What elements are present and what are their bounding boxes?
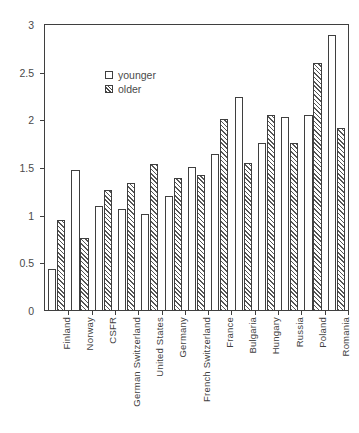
- x-axis-label: France: [224, 317, 235, 348]
- x-axis-label: Hungary: [270, 317, 281, 354]
- y-tick-label: 0.5: [0, 257, 34, 269]
- y-tick-mark: [40, 263, 44, 264]
- y-tick-label: 2: [0, 114, 34, 126]
- bar-older: [127, 183, 135, 311]
- bar-younger: [71, 170, 79, 311]
- x-tick-mark: [348, 311, 349, 315]
- bar-older: [313, 63, 321, 311]
- bar-younger: [95, 206, 103, 311]
- x-axis-label: Norway: [84, 317, 95, 350]
- x-axis-label: Russia: [294, 317, 305, 347]
- x-tick-mark: [162, 311, 163, 315]
- bar-older: [244, 163, 252, 311]
- x-axis-ticks: [45, 311, 348, 316]
- bar-younger: [48, 269, 56, 311]
- bar-younger: [165, 196, 173, 311]
- bar-younger: [211, 154, 219, 311]
- y-tick-mark: [40, 73, 44, 74]
- bar-older: [150, 164, 158, 311]
- bar-older: [220, 119, 228, 311]
- x-tick-mark: [115, 311, 116, 315]
- bar-younger: [328, 35, 336, 311]
- bar-younger: [235, 97, 243, 311]
- x-tick-mark: [255, 311, 256, 315]
- y-axis: 00.511.522.53: [0, 0, 42, 433]
- y-tick-label: 1: [0, 210, 34, 222]
- bars-layer: [45, 25, 348, 311]
- x-axis-label: Finland: [61, 317, 72, 350]
- x-tick-mark: [92, 311, 93, 315]
- bar-older: [337, 128, 345, 311]
- bar-older: [197, 175, 205, 311]
- bar-chart: 00.511.522.53 hours younger older Finlan…: [0, 0, 359, 433]
- x-tick-mark: [325, 311, 326, 315]
- bar-older: [174, 178, 182, 311]
- bar-younger: [304, 115, 312, 311]
- x-tick-mark: [231, 311, 232, 315]
- y-tick-mark: [40, 120, 44, 121]
- x-axis-label: French Switzerland: [201, 317, 212, 402]
- bar-older: [104, 190, 112, 311]
- bar-younger: [188, 167, 196, 311]
- y-tick-label: 1.5: [0, 162, 34, 174]
- y-tick-mark: [40, 168, 44, 169]
- x-tick-mark: [301, 311, 302, 315]
- x-tick-mark: [138, 311, 139, 315]
- x-tick-mark: [278, 311, 279, 315]
- x-axis-labels: FinlandNorwayCSFRGerman SwitzerlandUnite…: [45, 317, 348, 429]
- y-tick-label: 2.5: [0, 67, 34, 79]
- x-axis-label: Germany: [177, 317, 188, 357]
- bar-older: [80, 238, 88, 311]
- x-tick-mark: [68, 311, 69, 315]
- bar-younger: [258, 143, 266, 311]
- y-tick-label: 0: [0, 305, 34, 317]
- x-axis-label: CSFR: [107, 317, 118, 344]
- y-tick-label: 3: [0, 19, 34, 31]
- x-tick-mark: [185, 311, 186, 315]
- bar-older: [290, 143, 298, 311]
- x-axis-label: Romania: [340, 317, 351, 356]
- bar-older: [267, 115, 275, 311]
- x-axis-label: Bulgaria: [247, 317, 258, 353]
- bar-older: [57, 220, 65, 311]
- x-axis-label: Poland: [317, 317, 328, 348]
- y-tick-mark: [40, 216, 44, 217]
- x-tick-mark: [208, 311, 209, 315]
- bar-younger: [141, 214, 149, 311]
- bar-younger: [118, 209, 126, 311]
- x-axis-label: German Switzerland: [131, 317, 142, 407]
- x-axis-label: United States: [154, 317, 165, 377]
- bar-younger: [281, 117, 289, 311]
